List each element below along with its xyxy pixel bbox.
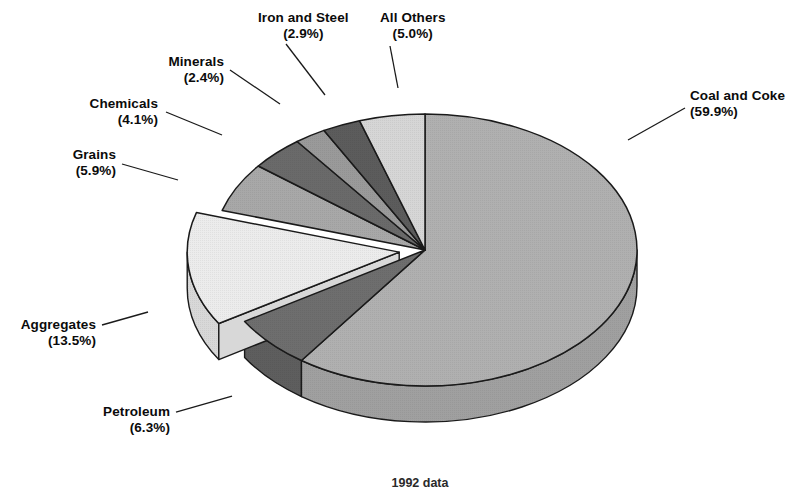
slice-label-minerals: Minerals (2.4%) [168, 54, 224, 85]
chart-caption: 1992 data [340, 476, 500, 490]
slice-label-name: Iron and Steel [258, 10, 349, 26]
slice-label-aggregates: Aggregates (13.5%) [21, 317, 96, 348]
slice-label-name: Petroleum [103, 404, 170, 420]
leader-line-minerals [230, 70, 280, 104]
slice-label-percent: (5.0%) [380, 26, 446, 42]
leader-line-coal-and-coke [628, 108, 685, 140]
slice-label-name: Minerals [168, 54, 224, 70]
slice-label-petroleum: Petroleum (6.3%) [103, 404, 170, 435]
slice-label-percent: (2.4%) [168, 70, 224, 86]
slice-label-percent: (2.9%) [258, 26, 349, 42]
slice-label-percent: (13.5%) [21, 333, 96, 349]
slice-label-name: Aggregates [21, 317, 96, 333]
leader-line-chemicals [166, 112, 222, 135]
slice-label-percent: (6.3%) [103, 420, 170, 436]
slice-label-iron-and-steel: Iron and Steel (2.9%) [258, 10, 349, 41]
slice-label-percent: (4.1%) [90, 112, 158, 128]
slice-label-name: All Others [380, 10, 446, 26]
slice-label-name: Coal and Coke [690, 88, 785, 104]
slice-label-chemicals: Chemicals (4.1%) [90, 96, 158, 127]
slice-label-grains: Grains (5.9%) [73, 147, 116, 178]
slice-label-percent: (5.9%) [73, 163, 116, 179]
slice-label-all-others: All Others (5.0%) [380, 10, 446, 41]
slice-label-name: Grains [73, 147, 116, 163]
leader-line-aggregates [102, 312, 148, 325]
leader-line-iron-and-steel [286, 44, 325, 95]
leader-line-petroleum [176, 396, 232, 412]
pie-chart-page: Coal and Coke (59.9%) Petroleum (6.3%) A… [0, 0, 804, 490]
leader-line-all-others [390, 46, 398, 88]
slice-label-percent: (59.9%) [690, 104, 785, 120]
pie-slices-layer [187, 114, 637, 422]
leader-line-grains [122, 164, 178, 180]
slice-label-name: Chemicals [90, 96, 158, 112]
slice-label-coal-and-coke: Coal and Coke (59.9%) [690, 88, 785, 119]
